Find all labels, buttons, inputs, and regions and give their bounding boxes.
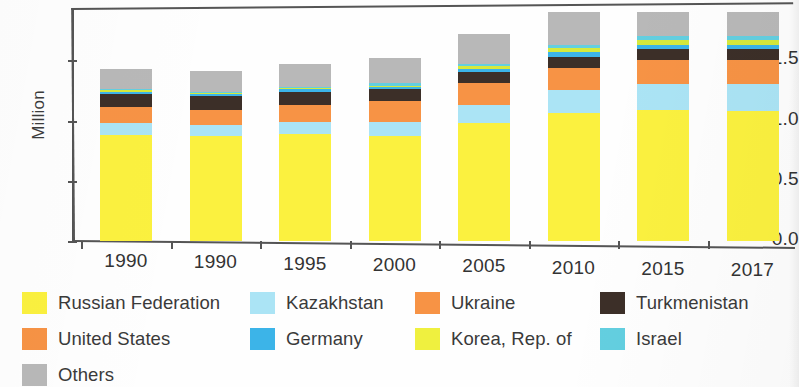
x-axis-tick-mark xyxy=(708,241,710,249)
stacked-bar[interactable] xyxy=(279,64,331,241)
y-axis-title: Million xyxy=(29,60,49,170)
stacked-bar[interactable] xyxy=(190,71,242,241)
bar-group xyxy=(73,8,795,241)
bar-segment[interactable] xyxy=(727,12,779,36)
bar-segment[interactable] xyxy=(727,84,779,111)
chart-page: Million 0.00.51.01.5 1990199019952000200… xyxy=(0,0,799,387)
legend-item[interactable]: Others xyxy=(22,364,114,386)
legend-label: Kazakhstan xyxy=(286,292,384,314)
legend-swatch xyxy=(600,292,625,314)
bar-segment[interactable] xyxy=(548,12,600,45)
bar-segment[interactable] xyxy=(279,92,331,105)
legend-item[interactable]: Ukraine xyxy=(415,292,515,314)
stacked-bar[interactable] xyxy=(369,58,421,241)
bar-segment[interactable] xyxy=(279,64,331,87)
bar-segment[interactable] xyxy=(369,122,421,136)
stacked-bar[interactable] xyxy=(637,12,689,241)
legend-label: Israel xyxy=(636,328,682,350)
legend-item[interactable]: Israel xyxy=(600,328,682,350)
x-axis-line xyxy=(73,240,795,249)
bar-segment[interactable] xyxy=(637,110,689,241)
legend-label: Korea, Rep. of xyxy=(451,328,572,350)
bar-segment[interactable] xyxy=(458,72,510,83)
legend-item[interactable]: Turkmenistan xyxy=(600,292,749,314)
bar-segment[interactable] xyxy=(727,49,779,60)
bar-segment[interactable] xyxy=(190,125,242,136)
legend-label: Others xyxy=(58,364,114,386)
legend-swatch xyxy=(600,328,625,350)
bar-segment[interactable] xyxy=(637,84,689,109)
bar-segment[interactable] xyxy=(100,69,152,89)
legend-swatch xyxy=(250,328,275,350)
bar-segment[interactable] xyxy=(458,83,510,105)
bar-segment[interactable] xyxy=(548,90,600,113)
legend-item[interactable]: Russian Federation xyxy=(22,292,220,314)
stacked-bar[interactable] xyxy=(100,69,152,241)
bar-segment[interactable] xyxy=(369,89,421,101)
bar-segment[interactable] xyxy=(548,113,600,241)
legend-label: United States xyxy=(58,328,170,350)
legend-swatch xyxy=(22,364,47,386)
x-axis-tick-label: 2017 xyxy=(708,259,798,281)
legend-swatch xyxy=(22,328,47,350)
x-axis-tick-label: 1990 xyxy=(81,250,171,272)
x-axis-tick-mark xyxy=(618,241,620,249)
legend-item[interactable]: United States xyxy=(22,328,170,350)
bar-segment[interactable] xyxy=(369,136,421,241)
x-axis-tick-label: 2005 xyxy=(439,255,529,277)
stacked-bar[interactable] xyxy=(727,12,779,241)
legend-swatch xyxy=(415,328,440,350)
legend-item[interactable]: Kazakhstan xyxy=(250,292,384,314)
bar-segment[interactable] xyxy=(637,49,689,60)
bar-segment[interactable] xyxy=(279,122,331,134)
legend-label: Russian Federation xyxy=(58,292,220,314)
x-axis-tick-label: 2000 xyxy=(350,254,440,276)
x-axis-tick-mark xyxy=(439,241,441,249)
bar-segment[interactable] xyxy=(548,68,600,91)
x-axis-tick-mark xyxy=(350,241,352,249)
x-axis-tick-mark xyxy=(260,241,262,249)
bar-segment[interactable] xyxy=(458,105,510,123)
bar-segment[interactable] xyxy=(369,101,421,121)
y-axis-tick-mark xyxy=(68,241,77,243)
bar-segment[interactable] xyxy=(190,71,242,91)
legend-swatch xyxy=(250,292,275,314)
bar-segment[interactable] xyxy=(727,111,779,241)
bar-segment[interactable] xyxy=(458,123,510,241)
x-axis-tick-label: 2015 xyxy=(618,258,708,280)
bar-segment[interactable] xyxy=(190,136,242,241)
bar-segment[interactable] xyxy=(100,135,152,241)
legend-item[interactable]: Germany xyxy=(250,328,363,350)
bar-segment[interactable] xyxy=(279,105,331,122)
x-axis-tick-label: 1990 xyxy=(171,251,261,273)
legend-label: Turkmenistan xyxy=(636,292,749,314)
stacked-bar[interactable] xyxy=(548,12,600,241)
x-axis-tick-mark xyxy=(81,241,83,249)
bar-segment[interactable] xyxy=(458,34,510,64)
chart-legend: Russian FederationKazakhstanUkraineTurkm… xyxy=(0,286,799,387)
bar-segment[interactable] xyxy=(100,94,152,107)
bar-segment[interactable] xyxy=(100,107,152,123)
bar-segment[interactable] xyxy=(369,58,421,83)
bar-segment[interactable] xyxy=(727,60,779,84)
stacked-bar[interactable] xyxy=(458,34,510,241)
legend-item[interactable]: Korea, Rep. of xyxy=(415,328,572,350)
x-axis-tick-mark xyxy=(171,241,173,249)
x-axis-tick-label: 1995 xyxy=(260,253,350,275)
bar-segment[interactable] xyxy=(637,12,689,36)
bar-segment[interactable] xyxy=(548,57,600,68)
legend-label: Germany xyxy=(286,328,363,350)
bar-segment[interactable] xyxy=(100,123,152,135)
bar-segment[interactable] xyxy=(637,60,689,84)
legend-label: Ukraine xyxy=(451,292,515,314)
legend-swatch xyxy=(415,292,440,314)
bar-segment[interactable] xyxy=(190,96,242,109)
bar-segment[interactable] xyxy=(190,110,242,126)
bar-segment[interactable] xyxy=(279,134,331,241)
x-axis-tick-label: 2010 xyxy=(529,257,619,279)
x-axis-tick-mark xyxy=(529,241,531,249)
legend-swatch xyxy=(22,292,47,314)
